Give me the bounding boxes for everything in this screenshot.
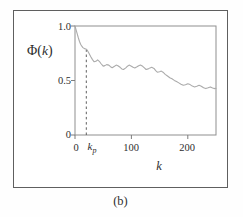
kp-marker-label: kp: [82, 141, 102, 153]
figure-page: 1.0 0.5 0 Φ(k) 0 100 200 kp k (b): [0, 0, 243, 217]
y-axis-label-pre: Φ(: [27, 43, 42, 58]
axis-tick-marks: [71, 26, 188, 139]
y-tick-label-0.5: 0.5: [45, 75, 71, 86]
y-axis-label: Φ(k): [27, 44, 53, 59]
kp-marker-label-sub: p: [92, 146, 96, 155]
y-tick-label-0: 0: [45, 129, 71, 140]
figure-caption: (b): [13, 195, 228, 208]
x-tick-label-100: 100: [117, 142, 145, 153]
plot-frame: [75, 26, 216, 135]
plot-canvas: [0, 0, 243, 217]
x-tick-label-200: 200: [173, 142, 201, 153]
x-axis-label: k: [151, 160, 167, 173]
phi-correlation-curve: [75, 26, 216, 89]
y-axis-label-post: ): [48, 43, 53, 58]
y-tick-label-1.0: 1.0: [45, 21, 71, 32]
